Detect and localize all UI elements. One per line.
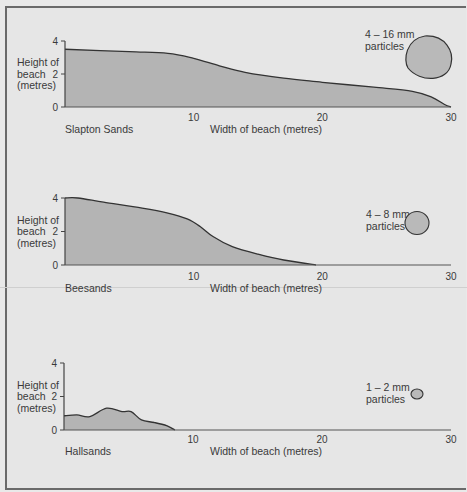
- y-axis-label: (metres): [17, 237, 56, 249]
- x-axis-label: Width of beach (metres): [210, 123, 322, 135]
- particle-icon: [411, 389, 423, 399]
- particle-size-label: 4 – 8 mm: [366, 208, 410, 220]
- x-tick-label: 30: [445, 112, 457, 123]
- particle-label: particles: [366, 393, 405, 405]
- y-axis-label: beach: [17, 68, 46, 80]
- particle-label: particles: [366, 220, 405, 232]
- y-axis-label: (metres): [17, 79, 56, 91]
- x-tick-label: 30: [445, 434, 457, 445]
- x-tick-label: 10: [188, 271, 200, 282]
- y-axis-label: Height of: [17, 214, 59, 226]
- beach-name-label: Beesands: [65, 282, 112, 294]
- y-axis-label: Height of: [17, 56, 59, 68]
- y-tick-label: 0: [51, 425, 57, 436]
- y-axis-label: (metres): [17, 402, 56, 414]
- x-axis-label: Width of beach (metres): [210, 282, 322, 294]
- y-axis-label: beach: [17, 390, 46, 402]
- particle-label: particles: [365, 40, 404, 52]
- x-tick-label: 20: [316, 434, 328, 445]
- y-tick-label: 2: [51, 391, 57, 402]
- beach-profile-area: [65, 49, 451, 107]
- y-tick-label: 0: [52, 102, 58, 113]
- x-tick-label: 10: [187, 434, 199, 445]
- y-tick-label: 4: [51, 358, 57, 369]
- particle-size-label: 1 – 2 mm: [366, 381, 410, 393]
- y-axis-label: beach: [17, 225, 46, 237]
- y-axis-label: Height of: [17, 379, 59, 391]
- particle-icon: [406, 36, 452, 78]
- beach-name-label: Hallsands: [65, 445, 111, 457]
- y-tick-label: 2: [52, 69, 58, 80]
- beach-chart-beesands: 420102030Height ofbeach(metres)BeesandsW…: [17, 193, 457, 295]
- y-tick-label: 0: [52, 260, 58, 271]
- x-tick-label: 20: [317, 112, 329, 123]
- beach-name-label: Slapton Sands: [65, 123, 133, 135]
- beach-chart-slapton-sands: 420102030Height ofbeach(metres)Slapton S…: [17, 28, 457, 135]
- y-tick-label: 4: [52, 193, 58, 204]
- x-axis-label: Width of beach (metres): [210, 445, 322, 457]
- x-tick-label: 10: [188, 112, 200, 123]
- beach-profile-area: [65, 198, 316, 265]
- beach-chart-hallsands: 420102030Height ofbeach(metres)Hallsands…: [17, 358, 457, 458]
- y-tick-label: 4: [52, 36, 58, 47]
- beach-profiles-figure: 420102030Height ofbeach(metres)Slapton S…: [0, 0, 467, 492]
- x-tick-label: 20: [317, 271, 329, 282]
- x-tick-label: 30: [445, 271, 457, 282]
- y-tick-label: 2: [52, 226, 58, 237]
- particle-size-label: 4 – 16 mm: [365, 28, 415, 40]
- particle-icon: [405, 212, 429, 235]
